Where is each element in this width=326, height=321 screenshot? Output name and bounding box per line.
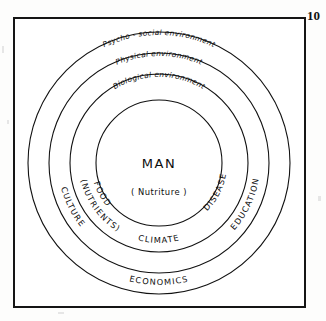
ring-label-physical-text: Physical environment <box>114 49 204 67</box>
ring-label-psycho-social: Psycho - social environment <box>101 28 217 50</box>
scan-speckle <box>7 120 9 124</box>
ring-label-biological-text: Biological environment <box>111 70 207 91</box>
factor-label-climate-text: CLIMATE <box>137 232 180 245</box>
ring-label-psycho-social-text: Psycho - social environment <box>101 28 217 50</box>
factor-label-education: EDUCATION <box>228 177 261 232</box>
ring-label-biological: Biological environment <box>111 70 207 91</box>
center-subtitle: ( Nutriture ) <box>131 187 187 197</box>
figure-root: 10 Psycho - social environment Physical … <box>0 0 326 321</box>
page-number: 10 <box>307 8 320 24</box>
scan-speckle <box>58 312 64 314</box>
factor-label-economics: ECONOMICS <box>129 273 190 287</box>
factor-label-disease: DISEASE <box>201 172 228 213</box>
factor-label-disease-text: DISEASE <box>201 172 228 213</box>
scan-speckle <box>2 46 4 53</box>
ring-label-physical: Physical environment <box>114 49 204 67</box>
center-title: MAN <box>142 156 177 171</box>
factor-label-economics-text: ECONOMICS <box>129 273 190 287</box>
factor-label-climate: CLIMATE <box>137 232 180 245</box>
concentric-rings-diagram: Psycho - social environment Physical env… <box>13 17 306 308</box>
factor-label-education-text: EDUCATION <box>228 177 261 232</box>
scan-speckle <box>318 196 321 201</box>
